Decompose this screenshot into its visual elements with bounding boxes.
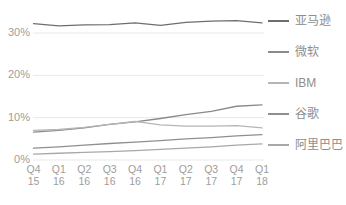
y-tick-label: 20% bbox=[0, 69, 30, 80]
y-tick-label: 10% bbox=[0, 112, 30, 123]
legend-label: 阿里巴巴 bbox=[295, 139, 343, 151]
x-tick-quarter: Q1 bbox=[247, 163, 277, 175]
x-tick-label: Q118 bbox=[247, 163, 277, 187]
legend-line-swatch bbox=[268, 144, 289, 146]
legend-entry[interactable]: 微软 bbox=[268, 45, 319, 59]
legend-line-swatch bbox=[268, 113, 289, 115]
legend-entry[interactable]: IBM bbox=[268, 76, 316, 90]
y-tick-label: 30% bbox=[0, 27, 30, 38]
legend-label: 微软 bbox=[295, 46, 319, 58]
legend-line-swatch bbox=[268, 82, 289, 84]
series-line bbox=[34, 105, 263, 132]
legend-entry[interactable]: 谷歌 bbox=[268, 107, 319, 121]
legend-label: 亚马逊 bbox=[295, 15, 331, 27]
legend-line-swatch bbox=[268, 51, 289, 53]
series-line bbox=[34, 144, 263, 154]
line-chart: 0%10%20%30% Q415Q116Q216Q316Q416Q117Q217… bbox=[0, 0, 346, 205]
x-tick-year: 18 bbox=[247, 175, 277, 187]
series-line bbox=[34, 21, 263, 26]
series-lines bbox=[34, 21, 263, 154]
series-line bbox=[34, 121, 263, 130]
legend-entry[interactable]: 亚马逊 bbox=[268, 14, 331, 28]
legend-entry[interactable]: 阿里巴巴 bbox=[268, 138, 343, 152]
legend-line-swatch bbox=[268, 20, 289, 22]
legend-label: 谷歌 bbox=[295, 108, 319, 120]
legend-label: IBM bbox=[295, 77, 316, 89]
